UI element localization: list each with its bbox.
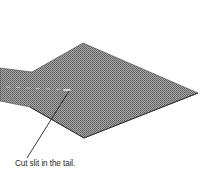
caption-label: Cut slit in the tail. (15, 159, 75, 168)
arrow-shape-diagram (0, 0, 215, 181)
slit-end-mark (63, 89, 71, 91)
dart-body (0, 43, 198, 138)
